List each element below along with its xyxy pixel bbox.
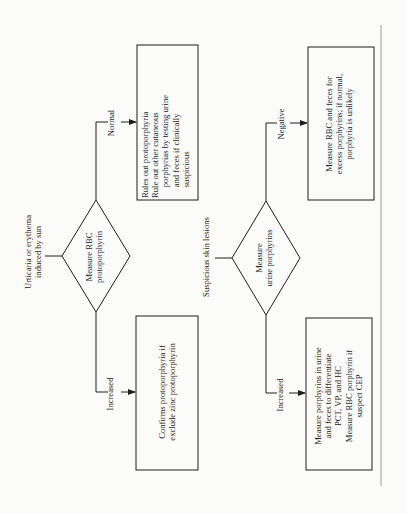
result-text-increased-2: Measure porphyrins in urine and feces to… xyxy=(313,331,367,461)
branch-label-increased-2: Increased xyxy=(275,370,287,420)
decision-text-urine-porphyrins: Measure urine porphyrins xyxy=(254,218,278,298)
input-label-sun: Urticaria or erythema induced by sun xyxy=(23,192,47,312)
branch-label-increased-1: Increased xyxy=(105,369,117,419)
input-label-skin-lesions: Suspicious skin lesions xyxy=(201,197,213,317)
branch-label-normal: Normal xyxy=(106,103,118,143)
result-text-negative: Measure RBC and feces for excess porphyr… xyxy=(324,59,358,189)
branch-label-negative: Negative xyxy=(276,99,288,149)
decision-text-rbc-protoporphyrin: Measure RBC protoporphyrin xyxy=(84,217,108,297)
result-text-increased-1: Confirms protoporphyria if exclude zinc … xyxy=(157,327,179,457)
result-text-normal: Rules out protoporphyria Rule out other … xyxy=(140,48,192,198)
